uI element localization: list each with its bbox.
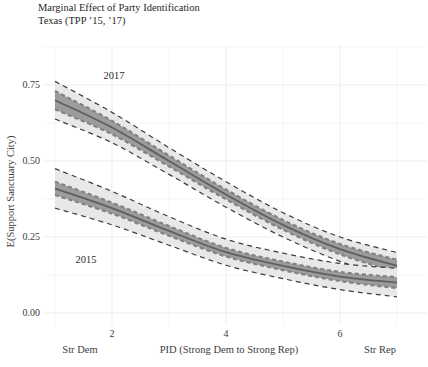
curve-label-2015: 2015	[66, 254, 106, 266]
x-end-label-left: Str Dem	[50, 343, 110, 356]
x-tick-label: 6	[328, 328, 352, 340]
y-axis-title: E(Support Sanctuary City)	[4, 112, 17, 272]
x-tick-label: 4	[214, 328, 238, 340]
y-tick-label: 0.00	[10, 307, 40, 319]
x-tick-label: 2	[100, 328, 124, 340]
chart-title: Marginal Effect of Party Identification	[38, 1, 200, 14]
y-tick-label: 0.25	[10, 231, 40, 243]
x-axis-title: PID (Strong Dem to Strong Rep)	[129, 343, 329, 356]
chart-canvas	[0, 0, 428, 367]
chart-page: Marginal Effect of Party Identification …	[0, 0, 428, 367]
x-end-label-right: Str Rep	[350, 343, 410, 356]
y-tick-label: 0.50	[10, 155, 40, 167]
y-tick-label: 0.75	[10, 79, 40, 91]
chart-subtitle: Texas (TPP ’15, ’17)	[38, 14, 126, 27]
curve-label-2017: 2017	[94, 70, 134, 82]
